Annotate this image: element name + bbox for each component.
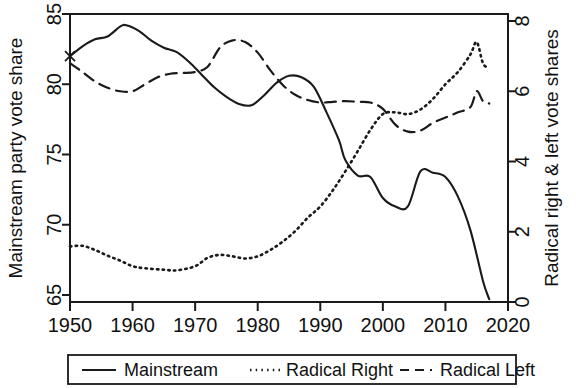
right-axis-title: Radical right & left vote shares [541,29,562,287]
right-axis-ticks: 02468 [508,15,533,307]
bottom-tick-label: 1950 [48,314,93,336]
bottom-tick-label: 1960 [110,314,155,336]
left-tick-label: 75 [43,143,65,165]
bottom-axis-ticks: 19501960197019801990200020102020 [48,302,531,336]
series-line-mainstream [70,25,489,299]
dual-axis-line-chart: 6570758085 02468 19501960197019801990200… [0,0,576,388]
bottom-tick-label: 1970 [173,314,218,336]
left-axis-title: Mainstream party vote share [5,38,26,279]
left-tick-label: 80 [43,73,65,95]
series-line-radical-left [70,40,489,132]
left-tick-label: 85 [43,3,65,25]
bottom-tick-label: 2010 [423,314,468,336]
legend-label-mainstream: Mainstream [124,360,218,380]
legend-label-radical-right: Radical Right [286,360,393,380]
legend: MainstreamRadical RightRadical Left [68,355,535,384]
series-group [70,25,489,299]
series-line-radical-right [70,42,489,271]
left-axis-ticks: 6570758085 [43,3,70,306]
legend-label-radical-left: Radical Left [440,360,535,380]
right-tick-label: 4 [511,156,533,167]
bottom-tick-label: 1980 [235,314,280,336]
right-tick-label: 0 [511,296,533,307]
right-tick-label: 6 [511,86,533,97]
right-tick-label: 8 [511,15,533,26]
bottom-tick-label: 2020 [486,314,531,336]
right-tick-label: 2 [511,226,533,237]
bottom-tick-label: 2000 [361,314,406,336]
left-tick-label: 70 [43,214,65,236]
plot-frame [70,14,508,302]
chart-figure: 6570758085 02468 19501960197019801990200… [0,0,576,388]
bottom-tick-label: 1990 [298,314,343,336]
left-tick-label: 65 [43,284,65,306]
